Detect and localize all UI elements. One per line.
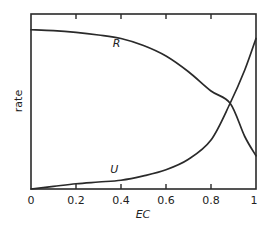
curve-u <box>31 39 256 190</box>
x-tick-label: 0 <box>28 194 35 207</box>
x-tick-label: 0.4 <box>112 194 130 207</box>
x-axis-tick-labels: 00.20.40.60.81 <box>28 194 258 207</box>
x-tick-label: 0.8 <box>202 194 220 207</box>
x-tick-label: 0.2 <box>67 194 85 207</box>
plot-frame <box>31 14 256 189</box>
series-label-u: U <box>110 163 118 176</box>
curve-r <box>31 30 256 156</box>
y-axis-label: rate <box>12 90 25 113</box>
x-tick-label: 1 <box>251 194 258 207</box>
x-axis-ticks <box>76 14 211 189</box>
series-labels: RU <box>110 37 120 176</box>
rate-vs-ec-chart: 00.20.40.60.81 RU EC rate <box>0 0 269 225</box>
x-axis-label: EC <box>136 208 151 221</box>
x-tick-label: 0.6 <box>157 194 175 207</box>
series-curves <box>31 30 256 189</box>
series-label-r: R <box>113 37 121 50</box>
